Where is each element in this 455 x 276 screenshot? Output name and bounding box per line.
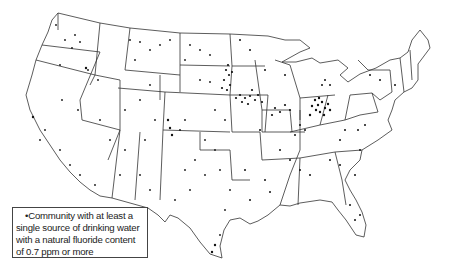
legend-line-1: •Community with at least a [16,210,144,222]
legend-line-3: with a natural fluoride content [16,234,144,246]
state-boundaries [36,13,412,205]
legend-line-4: of 0.7 ppm or more [16,246,144,258]
map-legend: •Community with at least a single source… [12,207,148,258]
legend-line-2: single source of drinking water [16,222,144,234]
